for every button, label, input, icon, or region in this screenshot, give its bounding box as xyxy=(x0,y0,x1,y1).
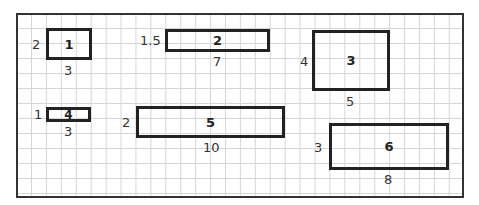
height-label: 2 xyxy=(122,116,130,129)
rectangle-label: 1 xyxy=(64,37,73,52)
rectangle-label: 3 xyxy=(346,53,355,68)
rectangle-3: 3 xyxy=(312,30,390,91)
height-label: 4 xyxy=(300,55,308,68)
width-label: 3 xyxy=(64,64,72,77)
height-label: 1 xyxy=(34,108,42,121)
rectangle-1: 1 xyxy=(46,28,92,60)
height-label: 1.5 xyxy=(140,34,161,47)
rectangle-label: 4 xyxy=(64,108,72,122)
height-label: 3 xyxy=(314,141,322,154)
width-label: 8 xyxy=(384,173,392,186)
rectangle-label: 5 xyxy=(206,115,215,130)
width-label: 7 xyxy=(213,55,221,68)
rectangle-6: 6 xyxy=(329,123,449,170)
width-label: 10 xyxy=(203,141,220,154)
rectangle-label: 6 xyxy=(384,139,393,154)
rectangle-4: 4 xyxy=(46,107,91,122)
rectangle-5: 5 xyxy=(136,106,285,138)
rectangle-label: 2 xyxy=(213,33,222,48)
width-label: 3 xyxy=(64,125,72,138)
height-label: 2 xyxy=(32,38,40,51)
width-label: 5 xyxy=(346,95,354,108)
rectangle-2: 2 xyxy=(165,29,270,52)
